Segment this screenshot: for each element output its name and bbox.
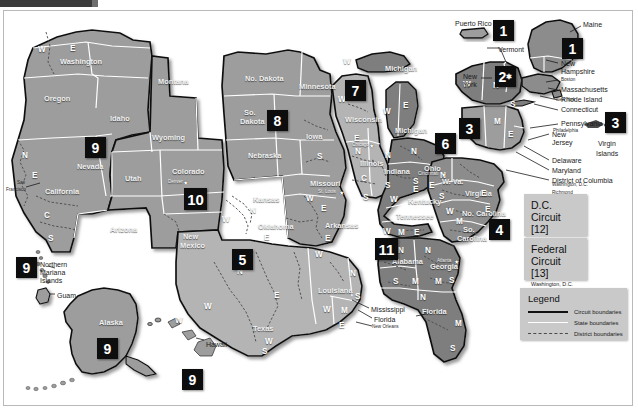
- district-letter: W: [446, 208, 454, 216]
- district-letter: S: [262, 348, 267, 356]
- circuit-badge-4[interactable]: 4: [489, 219, 510, 240]
- district-letter: N: [350, 270, 356, 278]
- capital-star-icon: ★: [454, 258, 459, 265]
- circuit-badge-number: 3: [612, 115, 620, 131]
- district-letter: M: [412, 278, 419, 286]
- circuit-badge-1[interactable]: 1: [493, 20, 514, 41]
- legend-swatch-circuit-icon: [528, 311, 568, 313]
- info-box-line1: Federal: [531, 243, 581, 255]
- district-letter: N: [250, 207, 256, 215]
- state-label: Wyoming: [152, 134, 185, 141]
- district-letter: N: [385, 152, 391, 160]
- circuit-badge-9[interactable]: 9: [16, 257, 37, 278]
- district-letter: E: [339, 322, 344, 330]
- circuit-badge-number: 9: [189, 372, 197, 388]
- callout-label: Mariana: [40, 269, 65, 276]
- district-letter: N: [355, 148, 361, 156]
- district-letter: N: [425, 247, 431, 255]
- district-letter: W: [383, 228, 391, 236]
- circuit-badge-number: 9: [104, 341, 112, 357]
- city-label: San: [17, 181, 25, 186]
- circuit-badge-10[interactable]: 10: [184, 188, 207, 210]
- capital-star-icon: ★: [441, 171, 446, 178]
- callout-label: Pennsylvania: [561, 120, 603, 127]
- info-box-content: FederalCircuit [13]Washington, D.C.: [524, 238, 587, 292]
- district-letter: M: [456, 218, 463, 226]
- circuit-badge-3[interactable]: 3: [605, 112, 626, 133]
- district-letter: E: [274, 292, 279, 300]
- callout-label: Virgin: [598, 140, 616, 147]
- district-letter: N: [420, 294, 426, 302]
- state-label: Kentucky: [408, 198, 441, 205]
- state-label: New: [183, 233, 198, 240]
- circuit-badge-number: 2: [499, 69, 507, 85]
- city-label: Chicago: [352, 143, 369, 148]
- district-letter: E: [485, 206, 490, 214]
- circuit-badge-11[interactable]: 11: [375, 238, 398, 260]
- district-letter: W: [323, 306, 331, 314]
- state-label: Arizona: [110, 226, 137, 233]
- district-letter: S: [450, 345, 455, 353]
- city-label: Boston: [561, 78, 575, 83]
- state-label: Washington: [60, 58, 102, 65]
- circuit-badge-3[interactable]: 3: [459, 118, 480, 139]
- district-letter: S: [510, 101, 515, 109]
- legend-swatch-state-icon: [528, 322, 568, 323]
- callout-label: Puerto Rico: [455, 20, 492, 27]
- circuit-badge-9[interactable]: 9: [182, 369, 203, 390]
- district-letter: C: [44, 212, 50, 220]
- callout-label: Rhode Island: [561, 96, 602, 103]
- district-letter: E: [481, 190, 486, 198]
- circuit-badge-2[interactable]: 2✱: [495, 66, 516, 87]
- callout-label: Connecticut: [561, 106, 598, 113]
- callout-label: Hawaii: [206, 341, 227, 348]
- callout-label: Florida: [374, 316, 395, 323]
- state-label: Mexico: [180, 242, 205, 249]
- city-label: Denver: [168, 180, 183, 185]
- info-box-federal-circuit: FederalCircuit [13]Washington, D.C.: [524, 238, 587, 280]
- callout-label: Delaware: [552, 157, 582, 164]
- legend-rows: Circuit boundariesState boundariesDistri…: [520, 306, 627, 339]
- state-label: Virginia: [465, 190, 492, 197]
- district-letter: E: [321, 205, 326, 213]
- district-letter: W: [265, 338, 273, 346]
- circuit-badge-1[interactable]: 1: [562, 38, 583, 59]
- district-letter: E: [413, 186, 418, 194]
- state-label: Montana: [158, 78, 188, 85]
- state-label: Illinois: [360, 160, 383, 167]
- district-letter: W: [306, 195, 314, 203]
- state-label: Alaska: [99, 319, 123, 326]
- info-box-line1: D.C.: [531, 199, 581, 211]
- state-label: Nebraska: [248, 152, 281, 159]
- district-letter: E: [32, 172, 37, 180]
- city-label: Francisco: [6, 188, 26, 193]
- circuit-badge-number: 7: [352, 83, 360, 99]
- callout-label: Islands: [596, 150, 618, 157]
- state-label: So.: [244, 109, 256, 116]
- circuit-badge-number: 8: [274, 113, 282, 129]
- state-label: Nevada: [77, 163, 103, 170]
- callout-label: Vermont: [498, 46, 524, 53]
- capital-star-icon: ★: [339, 189, 344, 196]
- callout-label: Northern: [40, 261, 67, 268]
- circuit-badge-8[interactable]: 8: [267, 110, 288, 131]
- district-letter: M: [341, 307, 348, 315]
- district-letter: E: [70, 45, 75, 53]
- state-label: Wisconsin: [345, 116, 382, 123]
- state-label: Kansas: [253, 196, 279, 203]
- callout-label: Jersey: [552, 139, 573, 146]
- state-label: Idaho: [110, 115, 130, 122]
- circuit-badge-9[interactable]: 9: [85, 137, 106, 158]
- callout-label: District of Columbia: [552, 177, 613, 184]
- district-letter: E: [264, 234, 269, 242]
- circuit-badge-number: 4: [496, 222, 504, 238]
- circuit-badge-5[interactable]: 5: [232, 249, 253, 270]
- circuit-badge-number: 5: [239, 252, 247, 268]
- circuit-badge-9[interactable]: 9: [97, 338, 118, 359]
- legend-title: Legend: [520, 288, 627, 306]
- callout-label: Guam: [57, 292, 76, 299]
- circuit-badge-7[interactable]: 7: [345, 80, 366, 101]
- district-letter: S: [355, 293, 360, 301]
- district-letter: S: [393, 278, 398, 286]
- circuit-badge-6[interactable]: 6: [435, 133, 456, 154]
